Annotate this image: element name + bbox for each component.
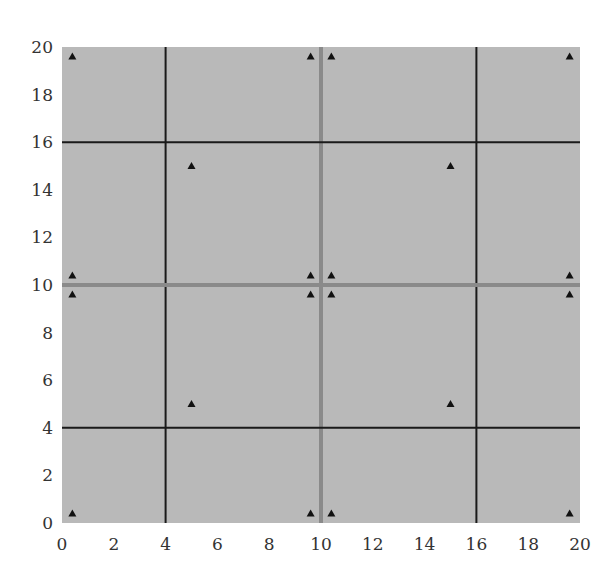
y-tick-label: 0 bbox=[42, 513, 53, 533]
y-tick-label: 20 bbox=[31, 37, 53, 57]
x-tick-label: 6 bbox=[212, 534, 223, 554]
x-tick-label: 8 bbox=[264, 534, 275, 554]
y-tick-label: 16 bbox=[31, 132, 53, 152]
x-tick-label: 10 bbox=[310, 534, 332, 554]
x-tick-label: 16 bbox=[466, 534, 488, 554]
x-tick-label: 20 bbox=[569, 534, 591, 554]
y-tick-label: 2 bbox=[42, 465, 53, 485]
x-tick-label: 18 bbox=[517, 534, 539, 554]
y-tick-label: 10 bbox=[31, 275, 53, 295]
y-axis-ticks: 02468101214161820 bbox=[31, 37, 53, 533]
y-tick-label: 4 bbox=[42, 418, 53, 438]
x-tick-label: 0 bbox=[57, 534, 68, 554]
y-tick-label: 6 bbox=[42, 370, 53, 390]
x-tick-label: 4 bbox=[160, 534, 171, 554]
x-tick-label: 14 bbox=[414, 534, 436, 554]
x-tick-label: 12 bbox=[362, 534, 384, 554]
y-tick-label: 14 bbox=[31, 180, 53, 200]
y-tick-label: 8 bbox=[42, 323, 53, 343]
x-tick-label: 2 bbox=[108, 534, 119, 554]
y-tick-label: 12 bbox=[31, 227, 53, 247]
scatter-chart: 02468101214161820 02468101214161820 bbox=[0, 0, 609, 586]
x-axis-ticks: 02468101214161820 bbox=[57, 534, 591, 554]
y-tick-label: 18 bbox=[31, 85, 53, 105]
